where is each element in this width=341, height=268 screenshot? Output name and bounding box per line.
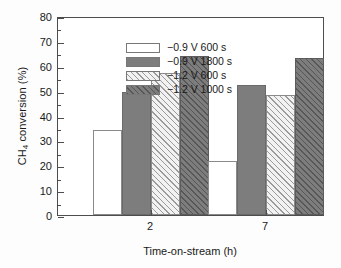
y-tick-30 (58, 142, 64, 143)
y-tick-label-20: 20 (30, 161, 52, 172)
legend-label-2: −0.9 V 1800 s (167, 56, 232, 67)
y-tick-minor (58, 130, 61, 131)
y-tick-label-30: 30 (30, 136, 52, 147)
legend-item-1[interactable]: −0.9 V 600 s (126, 41, 232, 54)
x-axis-title: Time-on-stream (h) (56, 245, 324, 257)
y-tick-20 (58, 167, 64, 168)
y-tick-label-0: 0 (30, 211, 52, 222)
y-tick-label-70: 70 (30, 37, 52, 48)
y-tick-minor (58, 105, 61, 106)
bar-2-series-2 (122, 92, 151, 215)
bar-7-series-1 (208, 161, 237, 215)
bar-2-series-1 (93, 130, 122, 215)
y-tick-minor (58, 80, 61, 81)
y-tick-10 (58, 192, 64, 193)
x-tick-label-7: 7 (245, 220, 285, 232)
x-tick-7 (266, 210, 267, 215)
x-tick-2 (151, 210, 152, 215)
y-tick-70 (58, 43, 64, 44)
y-tick-0 (58, 217, 64, 218)
y-tick-60 (58, 68, 64, 69)
y-tick-label-40: 40 (30, 112, 52, 123)
y-tick-label-80: 80 (30, 12, 52, 23)
legend-label-3: −1.2 V 600 s (167, 70, 226, 81)
y-tick-minor (58, 205, 61, 206)
x-tick-label-2: 2 (130, 220, 170, 232)
legend-swatch-icon-2 (126, 57, 160, 67)
legend-swatch-icon-4 (126, 85, 160, 95)
legend-label-4: −1.2 V 1000 s (167, 84, 232, 95)
y-tick-40 (58, 118, 64, 119)
legend: −0.9 V 600 s−0.9 V 1800 s−1.2 V 600 s−1.… (124, 40, 234, 99)
y-tick-minor (58, 30, 61, 31)
y-tick-label-60: 60 (30, 62, 52, 73)
legend-label-1: −0.9 V 600 s (167, 42, 226, 53)
plot-area: −0.9 V 600 s−0.9 V 1800 s−1.2 V 600 s−1.… (57, 17, 324, 216)
y-axis-title-text: CH4 conversion (%) (16, 67, 28, 166)
y-tick-80 (58, 18, 64, 19)
y-tick-minor (58, 180, 61, 181)
y-tick-minor (58, 155, 61, 156)
bar-7-series-3 (266, 95, 295, 215)
legend-swatch-icon-3 (126, 71, 160, 81)
legend-item-2[interactable]: −0.9 V 1800 s (126, 55, 232, 68)
y-tick-label-10: 10 (30, 186, 52, 197)
legend-item-3[interactable]: −1.2 V 600 s (126, 69, 232, 82)
bar-7-series-2 (237, 85, 266, 215)
bar-7-series-4 (295, 58, 324, 215)
y-tick-label-50: 50 (30, 87, 52, 98)
y-tick-50 (58, 93, 64, 94)
legend-item-4[interactable]: −1.2 V 1000 s (126, 83, 232, 96)
legend-swatch-icon-1 (126, 43, 160, 53)
y-tick-minor (58, 55, 61, 56)
bar-chart-figure: CH4 conversion (%) Time-on-stream (h) −0… (0, 0, 341, 268)
